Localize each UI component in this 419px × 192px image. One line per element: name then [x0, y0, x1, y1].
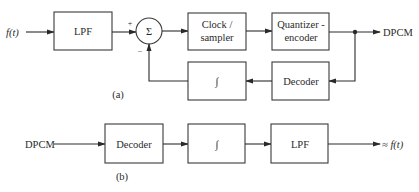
decoder-label: Decoder	[116, 139, 152, 150]
summer-minus-sign: −	[138, 47, 143, 56]
wire-integrator-to-summer	[149, 44, 188, 81]
output-label-dpcm: DPCM	[383, 27, 413, 38]
summer-sigma-symbol: Σ	[146, 26, 152, 37]
caption-b: (b)	[116, 171, 129, 183]
clock-label-line1: Clock /	[202, 19, 233, 30]
quantizer-label-line2: encoder	[284, 32, 318, 43]
summer-plus-sign: +	[128, 19, 133, 28]
integrator-block: ∫	[188, 124, 245, 163]
summer-junction: Σ + −	[128, 18, 162, 56]
input-label-dpcm: DPCM	[25, 139, 55, 150]
lpf-label: LPF	[74, 26, 92, 37]
part-b-decoder: DPCM Decoder ∫ LPF ≈ f(t) (b)	[25, 124, 404, 183]
output-label-approx-f-t: ≈ f(t)	[382, 139, 404, 151]
wire-branch-to-decoder	[329, 32, 355, 81]
dpcm-diagram: f(t) LPF Σ + − Clock / sampler Quantizer…	[0, 0, 419, 192]
lpf-block: LPF	[54, 12, 112, 50]
quantizer-encoder-block: Quantizer - encoder	[272, 13, 329, 50]
feedback-decoder-label: Decoder	[283, 76, 319, 87]
lpf-label-b: LPF	[291, 139, 309, 150]
input-label-f-t: f(t)	[6, 27, 19, 39]
caption-a: (a)	[112, 89, 124, 101]
feedback-decoder-block: Decoder	[272, 62, 329, 100]
part-a-encoder: f(t) LPF Σ + − Clock / sampler Quantizer…	[6, 12, 413, 101]
feedback-integrator-block: ∫	[188, 62, 246, 100]
quantizer-label-line1: Quantizer -	[277, 19, 325, 30]
lpf-block-b: LPF	[271, 124, 328, 163]
clock-sampler-block: Clock / sampler	[188, 13, 246, 50]
decoder-block: Decoder	[105, 124, 163, 163]
clock-label-line2: sampler	[200, 32, 234, 43]
